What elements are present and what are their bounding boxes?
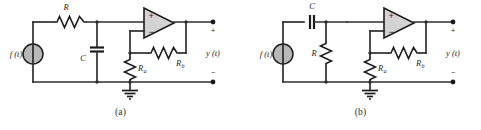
panel-caption-b: (b) xyxy=(240,107,481,117)
label-output-b: y (t) xyxy=(445,48,460,58)
component-ground-a xyxy=(122,82,138,99)
Ra-zigzag xyxy=(125,57,136,82)
label-series-resistor-a: R xyxy=(62,2,69,12)
component-operational-amplifier-b: + − xyxy=(384,8,414,38)
opamp-noninverting-input-sign-a: + xyxy=(149,11,154,21)
resistor-zigzag xyxy=(54,17,87,28)
circuit-schematic-b: C R f (t) xyxy=(240,0,481,106)
opamp-inverting-input-sign-b: − xyxy=(389,27,394,37)
R-zigzag-b xyxy=(321,41,332,66)
circuit-panel-b: C R f (t) xyxy=(240,0,481,130)
panel-caption-a: (a) xyxy=(0,107,241,117)
node-bottom-capacitor-a xyxy=(95,80,98,83)
component-series-resistor-a: R xyxy=(54,2,87,28)
label-shunt-capacitor-a: C xyxy=(80,53,86,63)
component-voltage-source-b: f (t) xyxy=(260,22,293,82)
node-bottom-resistor-b xyxy=(324,80,327,83)
output-plus-sign-b: + xyxy=(451,27,455,34)
component-gain-resistor-a: R a xyxy=(125,53,147,82)
output-minus-sign-a: − xyxy=(211,69,215,76)
output-terminal-negative-a xyxy=(211,80,216,85)
component-series-capacitor-b: C xyxy=(309,1,347,29)
output-terminal-positive-b xyxy=(451,20,456,25)
figure-root: R C f (t) xyxy=(0,0,481,130)
label-gain-resistor-sub-b: a xyxy=(384,68,387,74)
circuit-panel-a: R C f (t) xyxy=(0,0,241,130)
opamp-noninverting-input-sign-b: + xyxy=(389,11,394,21)
circuit-schematic-a: R C f (t) xyxy=(0,0,241,106)
label-feedback-resistor-sub-b: b xyxy=(422,63,425,69)
output-terminal-positive-a xyxy=(211,20,216,25)
component-gain-resistor-b: R a xyxy=(365,53,387,82)
label-voltage-source-a: f (t) xyxy=(10,49,23,59)
label-output-a: y (t) xyxy=(205,48,220,58)
component-shunt-capacitor-a: C xyxy=(80,22,104,82)
label-shunt-resistor-b: R xyxy=(310,48,317,58)
component-shunt-resistor-b: R xyxy=(310,22,331,82)
Rb-zigzag-b xyxy=(388,48,420,59)
component-voltage-source-a: f (t) xyxy=(10,22,43,82)
label-feedback-resistor-sub-a: b xyxy=(182,63,185,69)
Ra-zigzag-b xyxy=(365,57,376,82)
label-gain-resistor-sub-a: a xyxy=(144,68,147,74)
Rb-zigzag xyxy=(148,48,180,59)
opamp-inverting-input-sign-a: − xyxy=(149,27,154,37)
output-terminal-negative-b xyxy=(451,80,456,85)
output-plus-sign-a: + xyxy=(211,27,215,34)
component-operational-amplifier-a: + − xyxy=(144,8,174,38)
label-voltage-source-b: f (t) xyxy=(260,49,273,59)
label-series-capacitor-b: C xyxy=(309,1,315,11)
component-ground-b xyxy=(362,82,378,99)
output-minus-sign-b: − xyxy=(451,69,455,76)
